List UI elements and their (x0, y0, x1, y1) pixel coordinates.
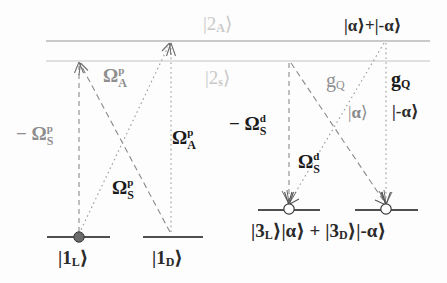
ground-1L-population-marker (74, 232, 84, 242)
coupling-label-neg-omega-S-p-text: − ΩpS (16, 123, 53, 144)
ground-state-label-1D: |1D⟩ (152, 248, 183, 268)
coupling-label-omega-S-d-bold: ΩdS (298, 152, 320, 176)
excited-state-label-2s: |2s⟩ (205, 68, 230, 88)
transition-1D-to-2s-dashed-diagonal (82, 67, 170, 232)
coupling-label-omega-S-d-bold-text: ΩdS (298, 151, 320, 172)
transition-1L-to-2A-diag-arrowhead (162, 43, 171, 55)
excited-state-label-2A-text: |2A⟩ (203, 13, 232, 34)
coupling-label-gQ-right: gQ (391, 69, 410, 90)
coupling-label-neg-omega-S-d-text: − ΩdS (229, 113, 266, 134)
cat-state-label-top: |α⟩+|-α⟩ (344, 17, 401, 34)
coupling-label-neg-omega-S-d: − ΩdS (229, 114, 266, 138)
dressed-3L-open-marker (284, 204, 294, 214)
coupling-label-gQ-right-text: gQ (391, 68, 410, 90)
coupling-label-gQ-left: gQ (326, 70, 345, 91)
coupling-label-omega-S-p-bold: ΩpS (112, 178, 134, 202)
dressed-state-combined-label-text: |3L⟩|α⟩ + |3D⟩|-α⟩ (251, 220, 386, 241)
coupling-label-omega-S-p-bold-text: ΩpS (112, 177, 134, 198)
ground-state-label-1L: |1L⟩ (58, 248, 88, 268)
cat-state-label-top-text: |α⟩+|-α⟩ (344, 16, 401, 35)
coherent-state-label-alpha-text: |α⟩ (348, 103, 368, 122)
dressed-3D-open-marker (381, 204, 391, 214)
coupling-label-omega-A-p-gray: ΩpA (103, 66, 127, 90)
excited-state-label-2s-text: |2s⟩ (205, 67, 230, 88)
energy-level-diagram: |2A⟩ |2s⟩ |α⟩+|-α⟩ − ΩpS ΩpA ΩpA ΩpS − Ω… (0, 0, 447, 283)
coupling-label-gQ-left-text: gQ (326, 69, 345, 91)
coupling-label-omega-A-p-bold: ΩpA (172, 128, 196, 152)
excited-state-label-2A: |2A⟩ (203, 14, 232, 34)
ground-state-label-1L-text: |1L⟩ (58, 247, 88, 268)
coupling-label-neg-omega-S-p: − ΩpS (16, 124, 53, 148)
ground-state-label-1D-text: |1D⟩ (152, 247, 183, 268)
coupling-label-omega-A-p-gray-text: ΩpA (103, 65, 127, 86)
coherent-state-label-neg-alpha-text: |-α⟩ (392, 102, 419, 121)
dressed-state-combined-label: |3L⟩|α⟩ + |3D⟩|-α⟩ (251, 221, 386, 241)
coupling-label-omega-A-p-bold-text: ΩpA (172, 127, 196, 148)
coherent-state-label-alpha: |α⟩ (348, 104, 368, 121)
coherent-state-label-neg-alpha: |-α⟩ (392, 103, 419, 120)
transition-2A-to-3L-dotted-diagonal (291, 43, 384, 200)
